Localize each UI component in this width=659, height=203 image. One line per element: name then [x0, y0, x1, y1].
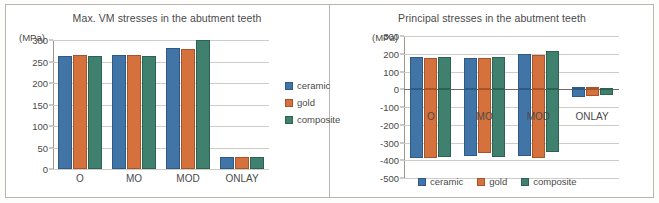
y-tick-label-250: 250 — [32, 56, 48, 67]
bar-gold-MO — [478, 58, 491, 89]
bar-gold-ONLAY — [586, 89, 599, 96]
legend-item-composite-2: composite — [521, 176, 576, 187]
y-tick-label-200: 200 — [32, 78, 48, 89]
bar-ceramic-MO — [464, 58, 477, 89]
chart-title-left: Max. VM stresses in the abutment teeth — [5, 12, 329, 24]
bar-gold-MOD — [181, 49, 195, 169]
legend-swatch-ceramic-icon — [285, 82, 293, 90]
bar-ceramic-ONLAY — [572, 87, 585, 89]
bar-composite-MOD — [546, 51, 559, 89]
y-tick-label--300: -300 — [380, 137, 399, 148]
y-tickmark-50 — [49, 147, 53, 148]
plot-area-left: 050100150200250300OMOMODONLAY — [53, 40, 269, 169]
plot-area-right: -500-400-300-200-1000100200300OMOMODONLA… — [404, 36, 619, 178]
y-tickmark-200 — [49, 83, 53, 84]
legend-swatch-composite-icon — [285, 116, 293, 124]
y-tickmark-0 — [400, 89, 404, 90]
legend-swatch-composite-icon-2 — [521, 178, 529, 186]
legend-label-ceramic-2: ceramic — [430, 176, 463, 187]
y-tickmark--100 — [400, 107, 404, 108]
y-tickmark-250 — [49, 61, 53, 62]
bar-ceramic-O — [410, 89, 423, 157]
x-tick-label-MO: MO — [477, 111, 493, 122]
bar-ceramic-O — [58, 56, 72, 169]
bar-composite-MO — [142, 56, 156, 169]
legend-right: ceramic gold composite — [418, 176, 577, 187]
bar-gold-MOD — [532, 89, 545, 157]
gridline--400 — [404, 160, 619, 161]
y-tick-label-200: 200 — [383, 48, 399, 59]
x-tick-label-O: O — [76, 173, 84, 184]
y-tick-label--400: -400 — [380, 155, 399, 166]
y-tick-label-150: 150 — [32, 99, 48, 110]
bar-gold-ONLAY — [235, 157, 249, 169]
bar-composite-ONLAY — [600, 88, 613, 90]
bar-gold-MOD — [532, 55, 545, 89]
y-tickmark--300 — [400, 142, 404, 143]
y-tick-label-50: 50 — [37, 142, 48, 153]
bar-ceramic-ONLAY — [572, 89, 585, 96]
chart-panel-max-vm-stresses: Max. VM stresses in the abutment teeth (… — [5, 4, 329, 198]
x-tick-label-O: O — [427, 111, 435, 122]
x-tick-label-ONLAY: ONLAY — [576, 111, 609, 122]
y-tickmark-0 — [49, 169, 53, 170]
bar-gold-O — [73, 55, 87, 169]
legend-swatch-gold-icon-2 — [477, 178, 485, 186]
bar-ceramic-O — [410, 57, 423, 89]
x-tick-label-MOD: MOD — [176, 173, 199, 184]
bar-ceramic-MOD — [518, 89, 531, 156]
bar-gold-O — [424, 89, 437, 157]
y-tick-label-100: 100 — [383, 66, 399, 77]
x-tick-label-MO: MO — [126, 173, 142, 184]
y-tickmark-100 — [400, 71, 404, 72]
y-tickmark--500 — [400, 178, 404, 179]
y-tickmark-100 — [49, 126, 53, 127]
bar-composite-MOD — [196, 40, 210, 169]
gridline-300 — [404, 36, 619, 37]
bar-ceramic-ONLAY — [220, 157, 234, 169]
bar-composite-O — [438, 89, 451, 157]
bar-composite-O — [438, 57, 451, 90]
y-tickmark-200 — [400, 53, 404, 54]
legend-label-gold-2: gold — [489, 176, 507, 187]
y-tickmark-150 — [49, 104, 53, 105]
gridline-0 — [53, 169, 269, 170]
y-tickmark--400 — [400, 160, 404, 161]
y-tick-label-0: 0 — [43, 164, 48, 175]
bar-composite-ONLAY — [600, 89, 613, 95]
y-tick-label-100: 100 — [32, 121, 48, 132]
bar-ceramic-MO — [112, 55, 126, 169]
y-tick-label-0: 0 — [394, 84, 399, 95]
y-tickmark--200 — [400, 124, 404, 125]
y-tickmark-300 — [49, 40, 53, 41]
legend-label-gold: gold — [297, 97, 315, 108]
legend-swatch-ceramic-icon-2 — [418, 178, 426, 186]
gridline-300 — [53, 40, 269, 41]
gridline-200 — [404, 54, 619, 55]
bar-composite-O — [88, 56, 102, 169]
legend-swatch-gold-icon — [285, 99, 293, 107]
x-tick-label-MOD: MOD — [527, 111, 550, 122]
y-tickmark-300 — [400, 36, 404, 37]
chart-title-right: Principal stresses in the abutment teeth — [330, 12, 654, 24]
y-tick-label-300: 300 — [383, 31, 399, 42]
bar-ceramic-MO — [464, 89, 477, 156]
y-tick-label--100: -100 — [380, 102, 399, 113]
bar-composite-MO — [492, 89, 505, 157]
y-tick-label-300: 300 — [32, 35, 48, 46]
legend-label-ceramic: ceramic — [297, 80, 330, 91]
y-tick-label--200: -200 — [380, 119, 399, 130]
legend-item-ceramic-2: ceramic — [418, 176, 463, 187]
bar-ceramic-MOD — [166, 48, 180, 169]
bar-gold-MO — [127, 55, 141, 169]
y-tick-label--500: -500 — [380, 173, 399, 184]
bar-composite-ONLAY — [250, 157, 264, 169]
bar-composite-MO — [492, 57, 505, 90]
bar-gold-ONLAY — [586, 87, 599, 89]
x-tick-label-ONLAY: ONLAY — [225, 173, 258, 184]
legend-label-composite-2: composite — [533, 176, 576, 187]
bar-gold-O — [424, 58, 437, 90]
figure-container: Max. VM stresses in the abutment teeth (… — [0, 0, 659, 203]
bar-ceramic-MOD — [518, 54, 531, 89]
legend-item-gold-2: gold — [477, 176, 507, 187]
